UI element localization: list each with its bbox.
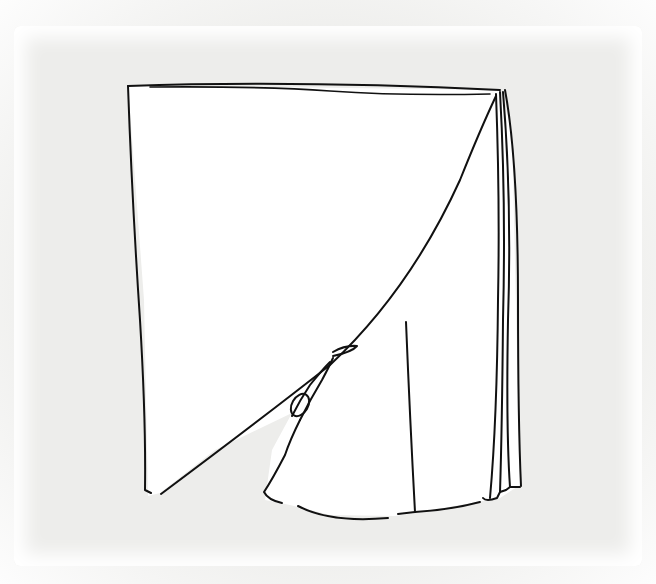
book-sheet-fill (128, 85, 520, 516)
sketch-canvas (0, 0, 656, 584)
book-sketch (0, 0, 656, 584)
